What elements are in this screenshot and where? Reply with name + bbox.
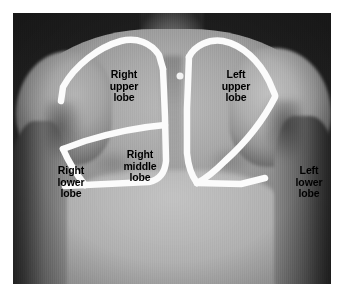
label-left-lower-lobe: Left lower lobe [281, 165, 331, 200]
label-right-upper-lobe: Right upper lobe [89, 69, 159, 104]
label-right-middle-lobe: Right middle lobe [105, 149, 175, 184]
left-lung-medial-border [187, 57, 197, 183]
left-oblique-fissure [197, 97, 275, 183]
label-right-lower-lobe: Right lower lobe [43, 165, 99, 200]
suprasternal-notch-marker [177, 73, 184, 80]
right-horizontal-fissure [63, 125, 165, 149]
lung-lobe-anatomy-figure: Right upper lobe Left upper lobe Right m… [13, 13, 331, 284]
label-left-upper-lobe: Left upper lobe [205, 69, 267, 104]
